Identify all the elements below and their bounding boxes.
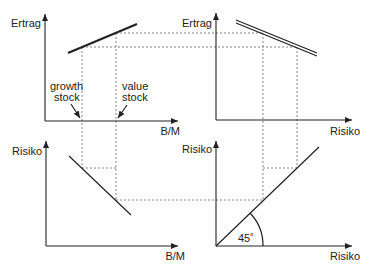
x-axis-label: B/M (165, 250, 185, 262)
panel-bottom-right: Risiko Risiko 45˚ (182, 141, 360, 262)
return-vs-bm-line (68, 24, 137, 53)
four-quadrant-diagram: Ertrag B/M growth stock value stock Ertr… (0, 0, 372, 273)
y-axis-label: Ertrag (11, 17, 41, 29)
growth-stock-label-2: stock (54, 91, 80, 103)
growth-arrow (71, 104, 80, 118)
y-axis-label: Risiko (182, 143, 212, 155)
risk-vs-bm-line (69, 156, 131, 215)
panel-top-left: Ertrag B/M growth stock value stock (11, 14, 180, 137)
x-axis-label: Risiko (330, 125, 360, 137)
45-degree-line (216, 147, 319, 246)
return-vs-risk-line-b (236, 23, 317, 56)
panel-bottom-left: Risiko B/M (12, 141, 185, 262)
x-axis-label: Risiko (330, 250, 360, 262)
y-axis-label: Risiko (12, 145, 42, 157)
return-vs-risk-line-a (236, 20, 317, 53)
x-axis-label: B/M (160, 125, 180, 137)
panel-top-right: Ertrag Risiko (182, 13, 360, 137)
y-axis-label: Ertrag (182, 17, 212, 29)
value-arrow (118, 105, 127, 118)
dashed-guides (82, 33, 297, 200)
angle-label: 45˚ (238, 232, 254, 244)
value-stock-label-2: stock (122, 91, 148, 103)
